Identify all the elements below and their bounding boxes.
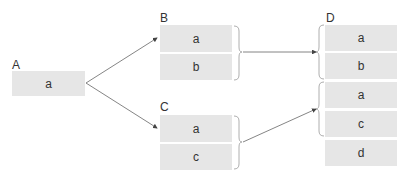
brace-c-right (234, 116, 242, 169)
edge-a-to-c (86, 83, 157, 128)
brace-d-group2 (316, 82, 324, 136)
group-d-label: D (326, 12, 335, 24)
group-c-item: a (160, 115, 232, 142)
group-d-item: a (325, 82, 397, 108)
group-d-item: d (325, 140, 397, 166)
brace-b-right (234, 26, 242, 80)
group-a-label: A (12, 59, 20, 71)
group-b-item: b (160, 54, 232, 80)
group-c-item: c (160, 144, 232, 170)
brace-d-group1 (316, 25, 324, 79)
group-b-item: a (160, 25, 232, 52)
group-b-label: B (160, 12, 168, 24)
group-a-item: a (12, 71, 85, 96)
group-d-item: a (325, 25, 397, 51)
edge-c-to-d (243, 109, 316, 142)
group-d-item: b (325, 53, 397, 79)
edge-a-to-b (86, 38, 157, 83)
group-c-label: C (160, 101, 169, 113)
group-d-item: c (325, 111, 397, 137)
